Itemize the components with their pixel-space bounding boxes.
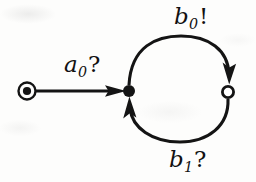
transition-arc-b0[interactable] (129, 36, 236, 85)
edge-label-b0: b0! (174, 5, 209, 31)
edge-label-b1-mark: ? (194, 146, 207, 172)
hollow-state-node[interactable] (222, 86, 233, 97)
bullseye-inner-dot (23, 87, 31, 95)
filled-state-node[interactable] (123, 85, 135, 97)
arc-path-b0 (129, 36, 229, 85)
state-diagram (0, 0, 256, 182)
arc-path-b1 (130, 99, 228, 142)
edge-label-b1-base: b (169, 146, 184, 172)
filled-state-circle (123, 85, 135, 97)
hollow-state-circle (222, 86, 233, 97)
transition-arc-b1[interactable] (123, 97, 228, 143)
edge-label-a0-subscript: 0 (78, 64, 87, 80)
edge-label-b0-subscript: 0 (189, 16, 198, 32)
initial-state-bullseye-node[interactable] (19, 83, 36, 100)
edge-label-b0-mark: ! (199, 3, 209, 29)
edge-label-b1-subscript: 1 (184, 159, 193, 175)
transition-arrow-a0[interactable] (36, 85, 126, 97)
arrowhead-b1 (123, 97, 136, 119)
edge-label-a0-mark: ? (88, 51, 101, 77)
diagram-canvas: a0? b0! b1? (0, 0, 256, 182)
edge-label-b0-base: b (174, 3, 189, 29)
edge-label-a0-base: a (64, 51, 78, 77)
edge-label-a0: a0? (64, 53, 101, 79)
edge-label-b1: b1? (169, 148, 207, 174)
